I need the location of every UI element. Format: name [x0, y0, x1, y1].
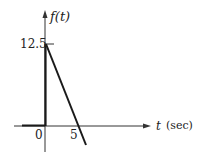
y-axis-arrow-icon — [43, 10, 48, 18]
y-tick-label: 12.5 — [20, 38, 47, 50]
x-axis-arrow-icon — [143, 124, 151, 129]
x-axis-unit: (sec) — [166, 120, 193, 131]
y-axis-label: f(t) — [50, 10, 70, 23]
x-tick-label-0: 0 — [35, 129, 43, 141]
plot-canvas — [0, 0, 197, 156]
x-axis-label: t — [156, 120, 161, 132]
x-tick-label-5: 5 — [70, 129, 78, 141]
